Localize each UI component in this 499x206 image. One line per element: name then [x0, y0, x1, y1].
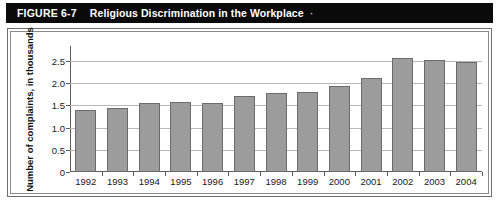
- y-axis-tick-label: 1.5: [52, 100, 65, 111]
- chart-outer-frame: Number of complaints, in thousands 00.51…: [7, 28, 492, 197]
- figure-header: FIGURE 6-7 Religious Discrimination in t…: [6, 3, 493, 23]
- bar: [329, 86, 350, 172]
- x-axis-tick-mark: [228, 172, 229, 176]
- x-axis-tick-mark: [197, 172, 198, 176]
- figure-title-trailing-mark: ·: [310, 7, 314, 19]
- x-axis-tick-label: 1997: [234, 176, 255, 187]
- x-axis-tick-mark: [387, 172, 388, 176]
- x-axis-tick-label: 1995: [170, 176, 191, 187]
- x-axis-tick-label: 1999: [297, 176, 318, 187]
- bar: [266, 93, 287, 172]
- x-axis-tick-label: 1992: [75, 176, 96, 187]
- bar: [75, 110, 96, 172]
- x-axis-tick-label: 1993: [107, 176, 128, 187]
- x-axis-tick-mark: [102, 172, 103, 176]
- x-axis-tick-label: 1996: [202, 176, 223, 187]
- x-axis-tick-mark: [482, 172, 483, 176]
- x-axis-tick-label: 2004: [456, 176, 477, 187]
- y-axis-tick-label: 1.0: [52, 122, 65, 133]
- figure-root: FIGURE 6-7 Religious Discrimination in t…: [0, 0, 499, 206]
- figure-number: FIGURE 6-7: [17, 7, 77, 19]
- bar: [297, 92, 318, 172]
- x-axis-tick-mark: [324, 172, 325, 176]
- bar: [107, 108, 128, 172]
- bar: [234, 96, 255, 172]
- x-axis-tick-label: 2001: [360, 176, 381, 187]
- y-axis-tick-mark: [66, 172, 70, 173]
- bar: [202, 103, 223, 172]
- x-axis-tick-label: 1994: [139, 176, 160, 187]
- y-axis-tick-label: 2.5: [52, 56, 65, 67]
- x-axis-tick-mark: [450, 172, 451, 176]
- x-axis-tick-mark: [355, 172, 356, 176]
- x-axis-tick-mark: [419, 172, 420, 176]
- x-axis-tick-mark: [133, 172, 134, 176]
- plot-area: 00.51.01.52.02.5 19921993199419951996199…: [70, 50, 482, 172]
- x-axis-tick-label: 2000: [329, 176, 350, 187]
- y-axis-tick-label: 0.5: [52, 144, 65, 155]
- figure-title: Religious Discrimination in the Workplac…: [90, 7, 304, 19]
- x-axis-tick-mark: [165, 172, 166, 176]
- y-axis-title-text: Number of complaints, in thousands: [24, 27, 35, 192]
- bar: [361, 78, 382, 172]
- y-axis-tick-label: 2.0: [52, 78, 65, 89]
- x-axis-tick-label: 1998: [265, 176, 286, 187]
- x-axis-tick-mark: [292, 172, 293, 176]
- bar: [392, 58, 413, 172]
- chart-inner-frame: Number of complaints, in thousands 00.51…: [10, 31, 489, 194]
- x-axis-tick-label: 2002: [392, 176, 413, 187]
- y-axis-title: Number of complaints, in thousands: [21, 46, 37, 172]
- bar: [170, 102, 191, 172]
- bar: [424, 60, 445, 172]
- y-axis-tick-label: 0: [60, 167, 65, 178]
- x-axis-tick-label: 2003: [424, 176, 445, 187]
- bar: [456, 62, 477, 172]
- x-axis-tick-mark: [260, 172, 261, 176]
- bars-group: [70, 50, 482, 172]
- bar: [139, 103, 160, 172]
